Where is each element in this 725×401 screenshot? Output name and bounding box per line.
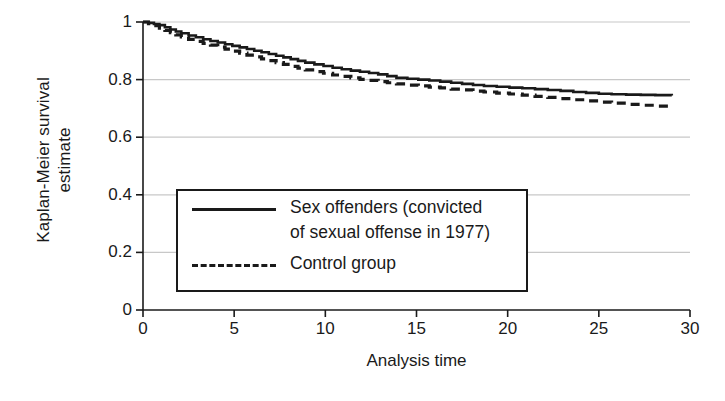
- legend-item-sex-offenders: Sex offenders (convicted of sexual offen…: [178, 197, 526, 221]
- x-tick-label-15: 15: [387, 320, 447, 337]
- x-tick-label-0: 0: [113, 320, 173, 337]
- legend-label-line-1: Sex offenders (convicted: [290, 195, 490, 220]
- legend-label-line-2: of sexual offense in 1977): [290, 220, 490, 245]
- x-tick-label-25: 25: [569, 320, 629, 337]
- legend: Sex offenders (convicted of sexual offen…: [176, 189, 528, 292]
- legend-label-line-1: Control group: [290, 251, 396, 276]
- legend-label-sex-offenders: Sex offenders (convicted of sexual offen…: [290, 195, 490, 245]
- x-tick-label-5: 5: [204, 320, 264, 337]
- legend-item-control-group: Control group: [178, 253, 526, 277]
- x-tick-label-20: 20: [478, 320, 538, 337]
- kaplan-meier-survival-chart: Kaplan-Meier survival estimate 00.20.40.…: [0, 0, 725, 401]
- x-axis-title: Analysis time: [143, 352, 690, 370]
- legend-label-control-group: Control group: [290, 251, 396, 276]
- x-tick-label-10: 10: [295, 320, 355, 337]
- legend-swatch-solid-line: [192, 208, 276, 211]
- legend-swatch-dashed-line: [192, 264, 276, 267]
- x-tick-label-30: 30: [660, 320, 720, 337]
